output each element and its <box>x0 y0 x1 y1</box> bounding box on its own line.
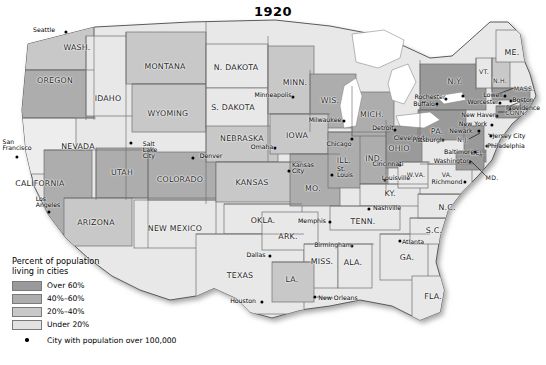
legend-title-line1: Percent of population <box>12 256 99 266</box>
legend-city-row: City with population over 100,000 <box>12 334 217 347</box>
legend-label-3: Under 20% <box>47 320 89 329</box>
legend-swatch-3 <box>12 320 42 330</box>
legend-label-2: 20%–40% <box>47 307 85 316</box>
legend-city-label: City with population over 100,000 <box>47 336 176 345</box>
legend-row-3: Under 20% <box>12 319 217 331</box>
city-dot-icon <box>25 338 28 341</box>
map-container: 1920 <box>0 0 546 365</box>
legend-row-2: 20%–40% <box>12 306 217 318</box>
legend-class-list: Over 60%40%–60%20%–40%Under 20% <box>12 280 217 331</box>
map-legend: Percent of population living in cities O… <box>12 256 217 347</box>
legend-row-0: Over 60% <box>12 280 217 292</box>
legend-swatch-2 <box>12 307 42 317</box>
legend-city-swatch <box>12 338 42 341</box>
legend-title-line2: living in cities <box>12 266 68 276</box>
legend-row-1: 40%–60% <box>12 293 217 305</box>
legend-label-1: 40%–60% <box>47 294 85 303</box>
legend-title: Percent of population living in cities <box>12 256 217 277</box>
legend-swatch-0 <box>12 281 42 291</box>
legend-label-0: Over 60% <box>47 281 85 290</box>
legend-swatch-1 <box>12 294 42 304</box>
